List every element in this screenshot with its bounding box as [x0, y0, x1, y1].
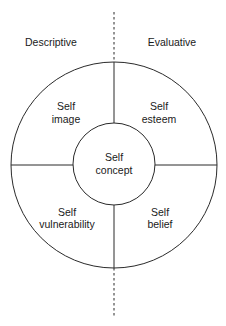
- quadrant-self-belief: Self belief: [147, 206, 172, 230]
- quadrant-self-esteem: Self esteem: [142, 100, 177, 125]
- quadrant-self-image-line2: image: [52, 113, 81, 125]
- center-self-concept-line1: Self: [105, 151, 123, 163]
- center-self-concept-line2: concept: [96, 164, 133, 176]
- quadrant-self-image: Self image: [52, 100, 81, 125]
- quadrant-self-image-line1: Self: [57, 100, 75, 112]
- label-descriptive: Descriptive: [25, 36, 77, 48]
- quadrant-self-esteem-line1: Self: [150, 100, 168, 112]
- quadrant-self-vulnerability-line2: vulnerability: [39, 218, 95, 230]
- quadrant-self-belief-line1: Self: [151, 206, 169, 218]
- quadrant-self-esteem-line2: esteem: [142, 113, 177, 125]
- quadrant-self-vulnerability: Self vulnerability: [39, 206, 95, 230]
- label-evaluative: Evaluative: [148, 36, 197, 48]
- quadrant-self-belief-line2: belief: [147, 218, 172, 230]
- quadrant-self-vulnerability-line1: Self: [58, 206, 76, 218]
- self-concept-diagram: Descriptive Evaluative Self image Self e…: [0, 0, 226, 326]
